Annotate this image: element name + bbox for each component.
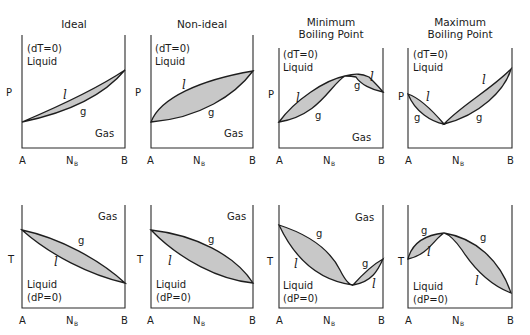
upper-phase-label: Liquid (155, 56, 185, 67)
condition-label: (dP=0) (156, 292, 191, 303)
liquidus-label-left: l (427, 245, 431, 259)
liquidus-label: l (168, 254, 172, 268)
x-right-label: B (249, 155, 256, 166)
condition-label: (dT=0) (27, 43, 62, 54)
x-axis-subscript: B (201, 320, 205, 327)
x-left-label: A (276, 155, 283, 166)
x-right-label: B (507, 315, 514, 326)
two-phase-region (22, 230, 125, 283)
liquidus-label-right: l (482, 73, 486, 87)
lower-phase-label: Liquid (156, 279, 186, 290)
x-left-label: A (405, 315, 412, 326)
y-axis-label: T (7, 254, 15, 265)
phase-diagram-figure: Ideal (dT=0) Liquid Gas P l g A N B B No… (0, 0, 530, 335)
vaporus-label-right: g (354, 80, 360, 91)
panel-ideal-temperature: Gas Liquid (dP=0) T g l A N B B (7, 205, 128, 327)
x-right-label: B (121, 155, 128, 166)
y-axis-label: T (136, 254, 144, 265)
liquidus-label: l (63, 88, 67, 102)
x-left-label: A (276, 315, 283, 326)
x-left-label: A (405, 155, 412, 166)
vaporus-label-left: g (316, 228, 322, 239)
two-phase-region-right (345, 74, 383, 92)
two-phase-region-left (279, 76, 345, 122)
upper-phase-label: Liquid (27, 56, 57, 67)
condition-label: (dP=0) (413, 294, 448, 305)
upper-phase-label: Liquid (413, 62, 443, 73)
x-axis-subscript: B (460, 320, 464, 327)
panel-title-line2: Boiling Point (298, 28, 363, 40)
lower-phase-label: Liquid (413, 281, 443, 292)
x-left-label: A (19, 155, 26, 166)
panel-nonideal-temperature: Gas Liquid (dP=0) T g l A N B B (136, 205, 256, 327)
panel-title-line2: Boiling Point (427, 28, 492, 40)
two-phase-region (22, 70, 125, 122)
panel-min-boiling-temperature: Gas Liquid (dP=0) T g l g l A N B B (266, 205, 385, 327)
condition-label: (dP=0) (27, 292, 62, 303)
panel-title-line1: Minimum (307, 16, 356, 28)
lower-phase-label: Liquid (27, 279, 57, 290)
x-right-label: B (378, 155, 385, 166)
x-axis-label: N (323, 315, 330, 326)
condition-label: (dP=0) (283, 293, 318, 304)
vaporus-label-right: g (480, 232, 486, 243)
x-axis-subscript: B (331, 320, 335, 327)
liquidus-label-left: l (294, 257, 298, 271)
x-axis-subscript: B (460, 160, 464, 167)
y-axis-label: T (397, 256, 405, 267)
panel-title: Non-ideal (177, 18, 227, 30)
panel-nonideal-pressure: Non-ideal (dT=0) Liquid Gas P l g A N B … (135, 18, 256, 167)
vaporus-label-left: g (421, 225, 427, 236)
x-left-label: A (19, 315, 26, 326)
liquidus-label-right: l (475, 274, 479, 288)
x-right-label: B (121, 315, 128, 326)
x-left-label: A (147, 315, 154, 326)
panel-max-boiling-temperature: Liquid (dP=0) T g l g l A N B B (397, 205, 514, 327)
x-right-label: B (378, 315, 385, 326)
x-axis-label: N (66, 315, 73, 326)
x-right-label: B (249, 315, 256, 326)
vaporus-label: g (208, 107, 214, 118)
lower-phase-label: Liquid (283, 280, 313, 291)
vaporus-label: g (80, 106, 86, 117)
vaporus-label-right: g (362, 258, 368, 269)
vaporus-label: g (208, 234, 214, 245)
y-axis-label: P (6, 87, 12, 98)
vaporus-label-left: g (315, 110, 321, 121)
x-axis-subscript: B (74, 320, 78, 327)
condition-label: (dT=0) (413, 49, 448, 60)
panel-max-boiling-pressure: Maximum Boiling Point (dT=0) Liquid P l … (398, 16, 514, 167)
liquidus-label: l (54, 255, 58, 269)
axes-box (408, 205, 512, 308)
liquidus-label-right: l (372, 277, 376, 291)
lower-phase-label: Gas (224, 128, 243, 139)
y-axis-label: T (266, 256, 274, 267)
liquidus-label-left: l (296, 91, 300, 105)
upper-phase-label: Liquid (283, 62, 313, 73)
y-axis-label: P (398, 91, 404, 102)
condition-label: (dT=0) (155, 43, 190, 54)
two-phase-region (151, 71, 253, 122)
panel-title: Ideal (61, 18, 87, 30)
lower-phase-label: Gas (95, 128, 114, 139)
panel-title-line1: Maximum (434, 16, 486, 28)
x-axis-label: N (452, 315, 459, 326)
x-axis-subscript: B (331, 160, 335, 167)
vaporus-label: g (78, 235, 84, 246)
upper-phase-label: Gas (227, 211, 246, 222)
y-axis-label: P (268, 89, 274, 100)
liquidus-label-right: l (370, 70, 374, 84)
liquidus-label: l (182, 78, 186, 92)
y-axis-label: P (135, 87, 141, 98)
lower-phase-label: Gas (352, 132, 371, 143)
vaporus-label-right: g (476, 112, 482, 123)
panel-min-boiling-pressure: Minimum Boiling Point (dT=0) Liquid Gas … (268, 16, 385, 167)
x-axis-label: N (193, 315, 200, 326)
panel-ideal-pressure: Ideal (dT=0) Liquid Gas P l g A N B B (6, 18, 128, 167)
x-axis-subscript: B (74, 160, 78, 167)
x-axis-label: N (193, 155, 200, 166)
two-phase-region (151, 230, 253, 283)
liquidus-label-left: l (426, 90, 430, 104)
x-left-label: A (147, 155, 154, 166)
two-phase-region-left (408, 233, 444, 259)
